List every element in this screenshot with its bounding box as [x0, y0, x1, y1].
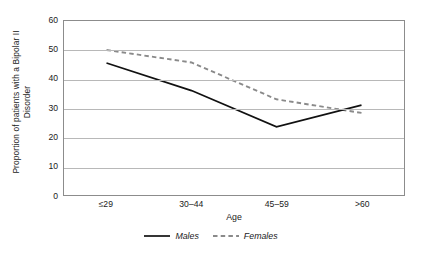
- y-axis-tick-labels: 0102030405060: [36, 0, 58, 253]
- gridline-40: [64, 80, 404, 81]
- legend-swatch-males-solid-line: [144, 232, 170, 240]
- y-axis-title: Proportion of patients with a Bipolar II…: [4, 4, 40, 200]
- legend-label-males: Males: [175, 231, 198, 241]
- x-axis-tick-labels: ≤2930–4445–59>60: [63, 199, 405, 213]
- y-tick-label-30: 30: [36, 104, 58, 113]
- chart-legend: Males Females: [0, 231, 422, 241]
- x-tick-label-0: ≤29: [99, 199, 113, 209]
- x-tick-label-2: 45–59: [265, 199, 289, 209]
- x-tick-label-3: >60: [355, 199, 370, 209]
- legend-entry-females: Females: [213, 231, 278, 241]
- plot-area: [63, 20, 405, 196]
- series-lines: [64, 21, 404, 195]
- y-tick-label-10: 10: [36, 162, 58, 171]
- y-axis-title-line-1: Proportion of patients with a Bipolar II: [11, 30, 22, 173]
- y-tick-label-20: 20: [36, 133, 58, 142]
- legend-entry-males: Males: [144, 231, 198, 241]
- legend-swatch-females-dashed-line: [213, 232, 239, 240]
- x-axis-title: Age: [63, 212, 405, 222]
- legend-label-females: Females: [244, 231, 278, 241]
- series-line-females: [107, 50, 362, 113]
- gridline-10: [64, 168, 404, 169]
- gridline-30: [64, 109, 404, 110]
- y-tick-label-0: 0: [36, 192, 58, 201]
- gridline-20: [64, 138, 404, 139]
- y-tick-label-50: 50: [36, 45, 58, 54]
- y-tick-label-40: 40: [36, 74, 58, 83]
- y-tick-label-60: 60: [36, 16, 58, 25]
- y-axis-title-line-2: Disorder: [22, 30, 33, 173]
- chart-figure: Proportion of patients with a Bipolar II…: [0, 0, 422, 253]
- gridline-50: [64, 50, 404, 51]
- series-line-males: [107, 63, 362, 127]
- x-tick-label-1: 30–44: [179, 199, 203, 209]
